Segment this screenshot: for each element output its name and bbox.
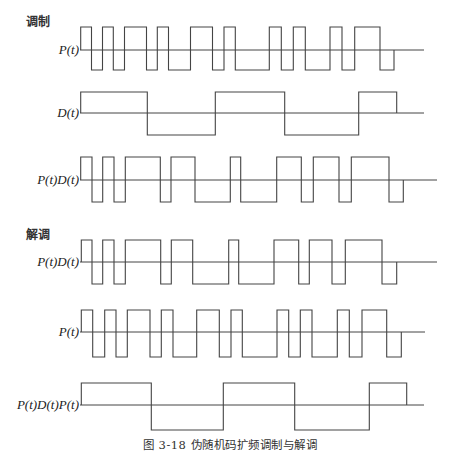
row-label-ptdtpt: P(t)D(t)P(t) — [1, 397, 79, 413]
row-label-dt: D(t) — [1, 105, 79, 121]
row-label-ptdt-demodulation: P(t)D(t) — [1, 254, 79, 270]
figure-caption: 图 3-18 伪随机码扩频调制与解调 — [0, 436, 450, 452]
waveform-ptdt-demodulation — [80, 240, 437, 284]
modulation-section-title: 调制 — [26, 12, 50, 29]
waveform-pt-modulation — [80, 27, 424, 70]
row-label-pt-demodulation: P(t) — [1, 324, 79, 340]
spread-spectrum-figure: 调制 解调 P(t) D(t) P(t)D(t) P(t)D(t) P(t) P… — [0, 0, 450, 457]
square-wave — [81, 310, 401, 357]
row-label-pt-modulation: P(t) — [1, 42, 79, 58]
row-label-ptdt-modulation: P(t)D(t) — [1, 172, 79, 188]
square-wave — [81, 27, 394, 70]
waveform-pt-demodulation — [80, 310, 425, 357]
square-wave — [81, 383, 406, 430]
waveform-canvas — [0, 0, 450, 457]
waveform-ptdtpt — [80, 383, 424, 430]
demodulation-section-title: 解调 — [26, 225, 50, 242]
waveform-dt — [80, 92, 424, 135]
waveform-ptdt-modulation — [80, 157, 437, 202]
